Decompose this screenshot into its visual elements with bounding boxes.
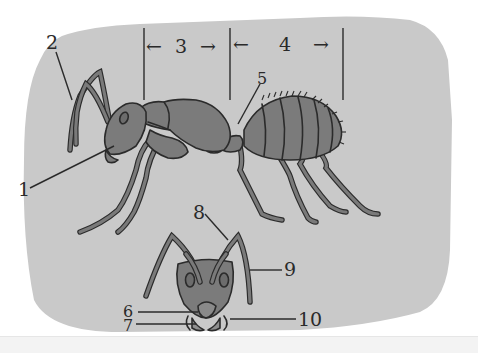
label-9: 9: [284, 258, 296, 280]
gray-background: [24, 16, 452, 332]
arrow-right-icon: →: [313, 33, 329, 55]
label-7: 7: [123, 316, 133, 335]
label-10: 10: [298, 308, 322, 330]
label-4: 4: [279, 33, 291, 55]
span-label-3: ← 3 →: [146, 35, 216, 57]
label-1: 1: [18, 178, 30, 200]
label-5: 5: [257, 69, 267, 88]
label-8: 8: [193, 201, 205, 223]
arrow-right-icon: →: [200, 35, 216, 57]
span-label-4: ← 4 →: [233, 33, 329, 55]
arrow-left-icon: ←: [233, 33, 249, 55]
label-3: 3: [175, 35, 187, 57]
arrow-left-icon: ←: [146, 35, 162, 57]
bottom-strip: [0, 336, 478, 353]
label-2: 2: [46, 31, 58, 53]
